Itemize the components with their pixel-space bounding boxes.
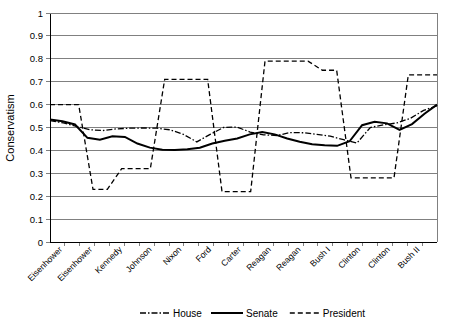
legend-label-president: President — [323, 308, 365, 319]
y-tick-label: 0.9 — [30, 30, 43, 41]
y-axis-title-group: Conservatism — [4, 94, 16, 161]
chart-container: 00.10.20.30.40.50.60.70.80.91 Eisenhower… — [0, 0, 450, 331]
x-category-label: Nixon — [161, 244, 184, 267]
x-category-label: Johnson — [124, 244, 154, 274]
x-category-label: Kennedy — [93, 244, 125, 276]
y-tick-label: 1 — [38, 8, 43, 19]
x-category-label: Ford — [194, 244, 214, 264]
data-series-group — [50, 61, 437, 192]
x-category-label: Reagan — [274, 244, 303, 273]
x-axis-category-labels: EisenhowerEisenhowerKennedyJohnsonNixonF… — [25, 244, 421, 283]
y-tick-label: 0.4 — [30, 145, 43, 156]
y-tick-label: 0 — [38, 237, 43, 248]
x-tickmarks-group — [65, 242, 422, 246]
x-category-label: Clinton — [366, 244, 392, 270]
x-category-label: Reagan — [244, 244, 273, 273]
x-category-label: Bush II — [396, 244, 422, 270]
y-tick-label: 0.5 — [30, 122, 43, 133]
conservatism-line-chart: 00.10.20.30.40.50.60.70.80.91 Eisenhower… — [0, 0, 450, 331]
y-tick-label: 0.6 — [30, 99, 43, 110]
legend: HouseSenatePresident — [140, 308, 365, 319]
x-category-label: Clinton — [336, 244, 362, 270]
y-axis-title: Conservatism — [4, 94, 16, 161]
y-axis-tick-labels: 00.10.20.30.40.50.60.70.80.91 — [30, 8, 43, 248]
y-tick-label: 0.3 — [30, 168, 43, 179]
gridlines-group — [46, 13, 437, 242]
y-tick-label: 0.8 — [30, 53, 43, 64]
y-tick-label: 0.1 — [30, 214, 43, 225]
y-tick-label: 0.2 — [30, 191, 43, 202]
x-category-label: Bush I — [308, 244, 332, 268]
x-category-label: Carter — [219, 244, 243, 268]
legend-label-senate: Senate — [246, 308, 278, 319]
legend-label-house: House — [173, 308, 202, 319]
y-tick-label: 0.7 — [30, 76, 43, 87]
